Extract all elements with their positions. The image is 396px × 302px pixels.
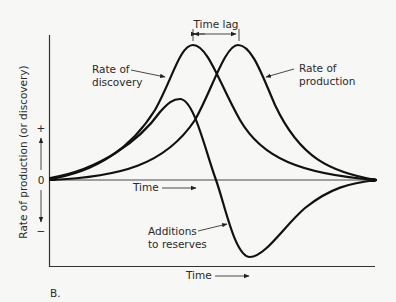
inner-time-label: Time — [132, 181, 159, 193]
convergence-point — [369, 178, 377, 182]
discovery-label-1: Rate of — [92, 63, 130, 75]
y-tick-plus: + — [37, 122, 46, 134]
reserves-label-1: Additions — [148, 225, 197, 237]
reserves-pointer-icon — [198, 224, 227, 231]
y-tick-zero: 0 — [38, 174, 45, 186]
y-tick-minus: − — [37, 225, 46, 237]
y-axis-label: Rate of production (or discovery) — [17, 65, 29, 238]
origin-point — [49, 177, 57, 181]
reserves-curve — [50, 99, 376, 257]
production-label-2: production — [299, 75, 355, 87]
bottom-time-label: Time — [185, 269, 212, 281]
reserves-label-2: to reserves — [148, 238, 207, 250]
production-pointer-icon — [266, 69, 294, 77]
production-label-1: Rate of — [299, 62, 337, 74]
discovery-label-2: discovery — [92, 76, 142, 88]
time-lag-label: Time lag — [192, 18, 238, 30]
panel-label: B. — [50, 287, 61, 299]
production-discovery-diagram: Rate of production (or discovery) + 0 − … — [0, 0, 396, 302]
